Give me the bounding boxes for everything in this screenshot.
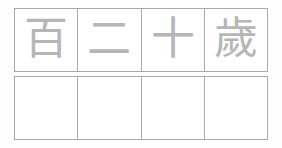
guide-characters-row: 百 二 十 歲	[14, 8, 268, 72]
practice-cell-3[interactable]	[142, 77, 205, 139]
guide-character-hundred: 百	[24, 17, 68, 61]
practice-cell-1[interactable]	[15, 77, 78, 139]
blank-practice-row	[14, 76, 268, 140]
practice-character-1	[15, 76, 77, 138]
guide-cell-3[interactable]: 十	[142, 9, 205, 71]
guide-cell-4[interactable]: 歲	[205, 9, 268, 71]
guide-character-two: 二	[87, 17, 131, 61]
guide-character-ten: 十	[151, 17, 195, 61]
practice-character-3	[142, 76, 204, 138]
character-practice-worksheet: 百 二 十 歲	[0, 0, 282, 148]
practice-cell-2[interactable]	[78, 77, 141, 139]
practice-character-2	[78, 76, 140, 138]
practice-character-4	[205, 76, 267, 138]
practice-cell-4[interactable]	[205, 77, 268, 139]
guide-character-years-of-age: 歲	[214, 17, 258, 61]
guide-cell-1[interactable]: 百	[15, 9, 78, 71]
guide-cell-2[interactable]: 二	[78, 9, 141, 71]
